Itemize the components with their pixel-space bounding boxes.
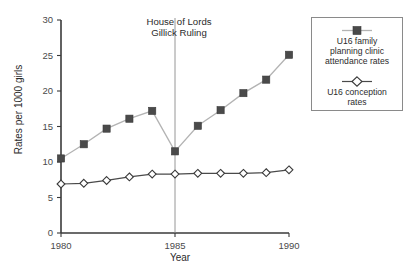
data-point-marker xyxy=(217,107,224,114)
data-point-marker xyxy=(126,115,133,122)
y-tick-label: 20 xyxy=(21,85,53,96)
x-tick-label: 1985 xyxy=(153,240,197,251)
legend-label-attendance-line-1: U16 family xyxy=(312,36,402,46)
data-point-marker xyxy=(240,169,248,177)
data-point-marker xyxy=(57,155,64,162)
data-point-marker xyxy=(103,177,111,185)
data-point-marker xyxy=(171,148,178,155)
data-point-marker xyxy=(194,122,201,129)
open-diamond-marker-icon xyxy=(312,76,402,87)
data-point-marker xyxy=(103,125,110,132)
data-point-marker xyxy=(262,169,270,177)
y-tick-label: 15 xyxy=(21,121,53,132)
data-point-marker xyxy=(80,179,88,187)
data-point-marker xyxy=(194,169,202,177)
data-point-marker xyxy=(149,107,156,114)
data-point-marker xyxy=(126,173,134,181)
x-tick-label: 1990 xyxy=(267,240,311,251)
y-tick-label: 10 xyxy=(21,156,53,167)
x-axis-label: Year xyxy=(110,252,250,263)
data-point-marker xyxy=(240,90,247,97)
x-tick-label: 1980 xyxy=(39,240,83,251)
legend-label-attendance-line-3: attendance rates xyxy=(312,56,402,66)
y-axis-label: Rates per 1000 girls xyxy=(13,50,24,170)
y-tick-label: 0 xyxy=(21,227,53,238)
chart-figure: Rates per 1000 girls Year House of Lords… xyxy=(0,0,416,275)
y-tick-label: 30 xyxy=(21,14,53,25)
annotation-line-2: Gillick Ruling xyxy=(108,27,250,38)
data-point-marker xyxy=(57,180,65,188)
data-point-marker xyxy=(263,76,270,83)
legend-item-attendance: U16 family planning clinic attendance ra… xyxy=(312,25,402,67)
data-point-marker xyxy=(80,141,87,148)
legend-label-conception-line-2: rates xyxy=(312,97,402,107)
gillick-ruling-annotation: House of Lords Gillick Ruling xyxy=(108,16,250,38)
filled-square-marker-icon xyxy=(312,25,402,36)
data-point-marker xyxy=(285,51,292,58)
annotation-line-1: House of Lords xyxy=(108,16,250,27)
legend-label-conception-line-1: U16 conception xyxy=(312,87,402,97)
data-point-marker xyxy=(217,169,225,177)
legend-label-attendance-line-2: planning clinic xyxy=(312,46,402,56)
y-tick-label: 25 xyxy=(21,50,53,61)
data-point-marker xyxy=(285,166,293,174)
data-point-marker xyxy=(171,170,179,178)
chart-legend: U16 family planning clinic attendance ra… xyxy=(311,17,403,111)
y-tick-label: 5 xyxy=(21,192,53,203)
data-point-marker xyxy=(148,170,156,178)
legend-item-conception: U16 conception rates xyxy=(312,76,402,107)
